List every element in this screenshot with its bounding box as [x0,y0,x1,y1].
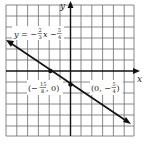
svg-text:4: 4 [58,34,61,40]
svg-text:8: 8 [41,88,44,94]
x-axis-label: x [137,74,142,84]
x-intercept-point [48,69,52,73]
svg-text:(0, −: (0, − [91,84,111,93]
y-axis-label: y [59,1,66,11]
svg-text:, 0): , 0) [46,84,59,93]
graph: x y y = − 2 3 x − 5 4 (− 15 8 , 0) (0, −… [0,0,156,144]
svg-text:2: 2 [39,27,42,33]
svg-text:x −: x − [43,30,57,39]
svg-text:): ) [117,84,120,93]
svg-text:5: 5 [113,81,116,87]
y-intercept-point [68,82,72,86]
svg-text:4: 4 [113,88,116,94]
svg-text:(−: (− [28,84,38,93]
y-axis-arrow-icon [68,1,74,8]
svg-text:5: 5 [58,27,61,33]
svg-text:3: 3 [39,34,42,40]
line-arrow-left-icon [6,40,14,47]
svg-text:y = −: y = − [13,30,37,39]
